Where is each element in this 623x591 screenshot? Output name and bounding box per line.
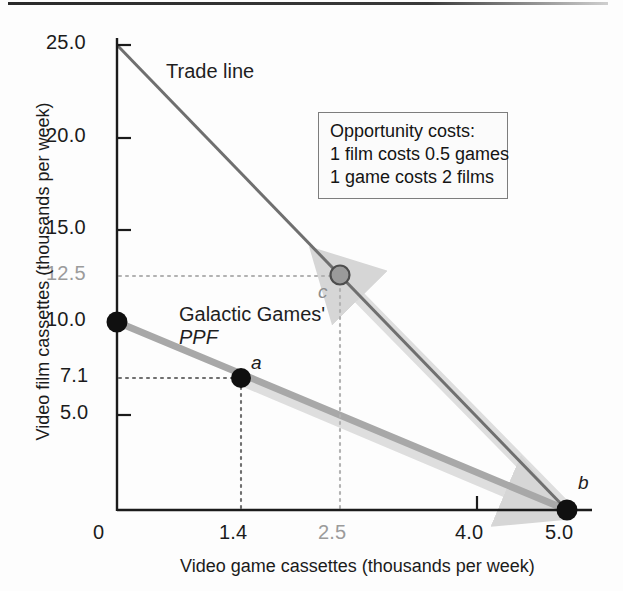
y-tick-label-5: 5.0	[60, 401, 88, 424]
x-tick-label-5-0: 5.0	[545, 521, 573, 544]
figure-canvas: 25.0 20.0 15.0 12.5 10.0 7.1 5.0 0 1.4 2…	[0, 0, 623, 591]
point-marker-b	[557, 500, 578, 521]
x-tick-label-2-5: 2.5	[318, 521, 346, 544]
x-tick-label-1-4: 1.4	[219, 521, 247, 544]
opportunity-costs-line1: 1 film costs 0.5 games	[330, 143, 498, 166]
ppf-label-line2: PPF	[179, 326, 325, 349]
point-label-a: a	[251, 352, 262, 374]
point-label-c: c	[318, 281, 328, 303]
ppf-line	[117, 322, 567, 510]
y-tick-label-7-1: 7.1	[60, 364, 88, 387]
point-marker-origin-10	[107, 312, 128, 333]
ppf-label: Galactic Games' PPF	[179, 303, 325, 349]
x-tick-label-0: 0	[93, 521, 104, 544]
plot-svg	[0, 0, 623, 591]
y-tick-label-25: 25.0	[46, 31, 86, 54]
y-axis-title: Video film cassettes (thousands per week…	[33, 62, 54, 482]
point-label-b: b	[578, 472, 589, 494]
opportunity-costs-line2: 1 game costs 2 films	[330, 166, 498, 189]
point-marker-c	[331, 266, 350, 285]
y-tick-marks	[117, 45, 131, 415]
opportunity-costs-box: Opportunity costs: 1 film costs 0.5 game…	[318, 112, 508, 199]
ppf-label-line1: Galactic Games'	[179, 303, 325, 325]
x-axis-title: Video game cassettes (thousands per week…	[180, 556, 535, 577]
x-tick-label-4-0: 4.0	[455, 521, 483, 544]
trade-line-label: Trade line	[166, 60, 254, 83]
opportunity-costs-title: Opportunity costs:	[330, 120, 498, 143]
arrow-along-ppf	[248, 382, 520, 497]
point-marker-a	[231, 368, 251, 388]
